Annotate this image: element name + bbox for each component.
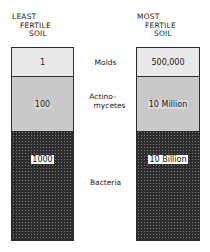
bacteria-segment: 10 Billion [137, 131, 199, 240]
bacteria-value: 10 Billion [148, 155, 187, 164]
actinomycetes-segment: 100 [12, 77, 73, 131]
molds-segment: 500,000 [137, 48, 199, 77]
actinomycetes-segment: 10 Million [137, 77, 199, 131]
bacteria-label: Bacteria [76, 179, 135, 188]
header-line: SOIL [137, 30, 176, 39]
most-fertile-soil-header: MOST FERTILE SOIL [137, 13, 176, 39]
bacteria-segment: 1000 [12, 131, 73, 240]
actinomycetes-value: 100 [34, 100, 51, 109]
least-fertile-soil-header: LEAST FERTILE SOIL [12, 13, 51, 39]
actinomycetes-label-line2: mycetes [76, 102, 135, 111]
actinomycetes-label: Actino- mycetes [76, 93, 135, 110]
header-line: SOIL [12, 30, 51, 39]
least-fertile-column: 1 100 1000 [11, 47, 74, 241]
molds-label: Molds [76, 59, 135, 68]
molds-value: 1 [39, 58, 46, 67]
actinomycetes-value: 10 Million [148, 100, 188, 109]
most-fertile-column: 500,000 10 Million 10 Billion [136, 47, 200, 241]
molds-value: 500,000 [150, 58, 185, 67]
bacteria-value: 1000 [31, 155, 53, 164]
molds-segment: 1 [12, 48, 73, 77]
